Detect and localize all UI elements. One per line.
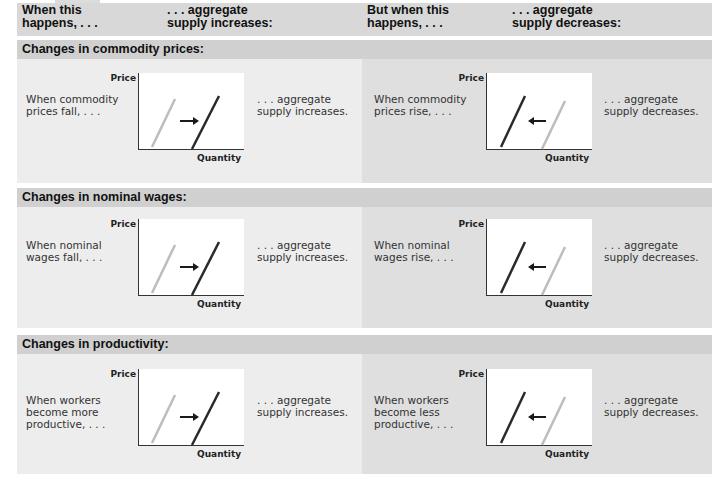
right-arrow-icon bbox=[180, 117, 199, 125]
curves-svg bbox=[446, 369, 596, 449]
new-as-curve bbox=[501, 242, 525, 293]
curves-svg bbox=[446, 219, 596, 299]
panel-less-productive: When workers become less productive, . .… bbox=[362, 354, 712, 474]
panel-more-productive: When workers become more productive, . .… bbox=[17, 354, 362, 474]
panel-nominal-wages-fall: When nominal wages fall, . . . Price Qua… bbox=[17, 207, 362, 328]
result-text: . . . aggregate supply increases. bbox=[257, 394, 348, 418]
section-title: Changes in commodity prices: bbox=[22, 43, 204, 56]
section-title: Changes in nominal wages: bbox=[22, 191, 187, 204]
right-arrow-icon bbox=[180, 413, 199, 421]
condition-text: When workers become more productive, . .… bbox=[26, 394, 105, 430]
right-arrow-icon bbox=[180, 263, 199, 271]
curves-svg bbox=[98, 219, 248, 299]
section-title: Changes in productivity: bbox=[22, 338, 169, 351]
old-as-curve bbox=[152, 99, 175, 147]
header-supply-increases: . . . aggregate supply increases: bbox=[167, 4, 273, 30]
old-as-curve bbox=[542, 101, 565, 149]
curves-svg bbox=[98, 369, 248, 449]
x-axis-label: Quantity bbox=[545, 299, 589, 309]
old-as-curve bbox=[152, 395, 175, 443]
condition-text: When workers become less productive, . .… bbox=[374, 394, 453, 430]
x-axis-label: Quantity bbox=[197, 449, 241, 459]
as-shift-left-chart: Price Quantity bbox=[446, 73, 586, 163]
left-arrow-icon bbox=[528, 413, 546, 421]
condition-text: When nominal wages fall, . . . bbox=[26, 239, 102, 263]
x-axis-label: Quantity bbox=[197, 153, 241, 163]
old-as-curve bbox=[542, 247, 565, 295]
as-shift-right-chart: Price Quantity bbox=[98, 369, 238, 459]
result-text: . . . aggregate supply decreases. bbox=[604, 239, 699, 263]
new-as-curve bbox=[501, 392, 525, 443]
result-text: . . . aggregate supply decreases. bbox=[604, 394, 699, 418]
condition-text: When nominal wages rise, . . . bbox=[374, 239, 453, 263]
result-text: . . . aggregate supply decreases. bbox=[604, 93, 699, 117]
column-header-row: When this happens, . . . . . . aggregate… bbox=[17, 3, 712, 36]
as-shift-right-chart: Price Quantity bbox=[98, 219, 238, 309]
left-arrow-icon bbox=[528, 263, 546, 271]
result-text: . . . aggregate supply increases. bbox=[257, 93, 348, 117]
as-shift-left-chart: Price Quantity bbox=[446, 369, 586, 459]
new-as-curve bbox=[501, 96, 525, 147]
old-as-curve bbox=[542, 397, 565, 445]
panel-nominal-wages-rise: When nominal wages rise, . . . Price Qua… bbox=[362, 207, 712, 328]
section-commodity-prices-header: Changes in commodity prices: bbox=[17, 40, 712, 59]
header-but-when-this-happens: But when this happens, . . . bbox=[367, 4, 449, 30]
curves-svg bbox=[98, 73, 248, 153]
result-text: . . . aggregate supply increases. bbox=[257, 239, 348, 263]
header-supply-decreases: . . . aggregate supply decreases: bbox=[512, 4, 621, 30]
section-productivity-header: Changes in productivity: bbox=[17, 335, 712, 354]
curves-svg bbox=[446, 73, 596, 153]
as-shift-right-chart: Price Quantity bbox=[98, 73, 238, 163]
panel-commodity-prices-rise: When commodity prices rise, . . . Price … bbox=[362, 59, 712, 183]
header-when-this-happens: When this happens, . . . bbox=[22, 4, 98, 30]
panel-commodity-prices-fall: When commodity prices fall, . . . Price … bbox=[17, 59, 362, 183]
left-arrow-icon bbox=[528, 117, 546, 125]
x-axis-label: Quantity bbox=[545, 449, 589, 459]
section-nominal-wages-header: Changes in nominal wages: bbox=[17, 188, 712, 207]
as-shift-left-chart: Price Quantity bbox=[446, 219, 586, 309]
x-axis-label: Quantity bbox=[545, 153, 589, 163]
x-axis-label: Quantity bbox=[197, 299, 241, 309]
old-as-curve bbox=[152, 245, 175, 293]
